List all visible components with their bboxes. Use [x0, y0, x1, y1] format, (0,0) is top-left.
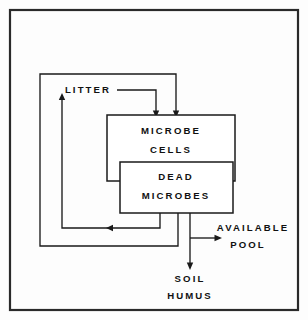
- diagram-canvas: LITTER MICROBE CELLS DEAD MICROBES AVAIL…: [0, 0, 308, 320]
- label-microbe-cells-line1: MICROBE: [141, 125, 201, 136]
- label-microbe-cells-line2: CELLS: [150, 144, 192, 155]
- arrowhead-available-pool-right: [215, 235, 223, 241]
- edge-litter-to-microbe: [117, 90, 156, 113]
- arrowhead-soil-humus-down: [187, 263, 193, 271]
- label-available-pool-line2: POOL: [230, 239, 266, 250]
- label-litter: LITTER: [65, 84, 111, 95]
- soil-cycle-diagram: LITTER MICROBE CELLS DEAD MICROBES AVAIL…: [0, 0, 308, 320]
- arrowhead-inner-recycle-left: [106, 225, 113, 231]
- label-dead-microbes-line1: DEAD: [158, 171, 194, 182]
- label-soil-humus-line2: HUMUS: [167, 290, 213, 301]
- label-dead-microbes-line2: MICROBES: [142, 190, 211, 201]
- label-soil-humus-line1: SOIL: [175, 273, 206, 284]
- label-available-pool-line1: AVAILABLE: [217, 222, 289, 233]
